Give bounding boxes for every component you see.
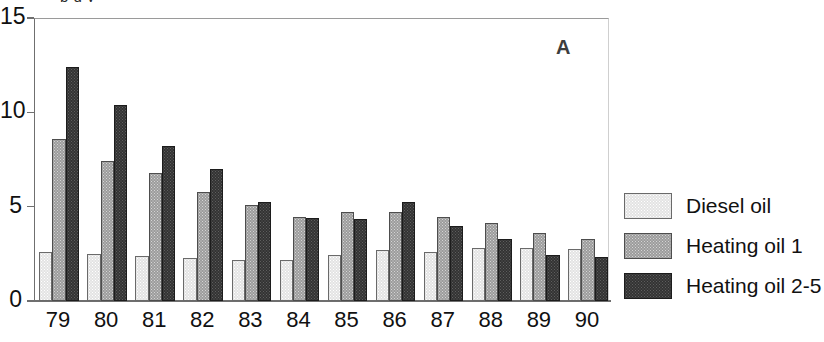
x-tick-label: 88: [467, 307, 515, 333]
legend-swatch-heating1: [624, 233, 672, 259]
legend-item-heating1: Heating oil 1: [624, 228, 820, 264]
bar-90-heating-oil-1: [581, 239, 594, 301]
bar-89-diesel-oil: [520, 248, 533, 301]
bar-84-diesel-oil: [280, 260, 293, 302]
bar-85-heating-oil-1: [341, 212, 354, 301]
y-tick-label: 0: [0, 286, 22, 313]
bar-79-heating-oil-2-5: [66, 67, 79, 301]
cut-off-caption: p g y: [60, 0, 360, 2]
bar-89-heating-oil-1: [533, 233, 546, 301]
bar-88-diesel-oil: [472, 248, 485, 301]
panel-label: A: [556, 36, 570, 59]
x-tick-label: 86: [371, 307, 419, 333]
legend-label-diesel: Diesel oil: [686, 194, 771, 218]
bar-82-diesel-oil: [183, 258, 196, 301]
bar-82-heating-oil-2-5: [210, 169, 223, 301]
y-tick-mark: [27, 300, 34, 302]
legend-item-diesel: Diesel oil: [624, 188, 820, 224]
y-tick-mark: [27, 17, 34, 19]
x-tick-label: 81: [130, 307, 178, 333]
bar-90-diesel-oil: [568, 249, 581, 301]
x-tick-label: 80: [82, 307, 130, 333]
bar-79-heating-oil-1: [52, 139, 65, 301]
y-tick-label: 10: [0, 97, 22, 124]
legend-item-heating25: Heating oil 2-5: [624, 268, 820, 304]
legend-label-heating1: Heating oil 1: [686, 234, 803, 258]
bar-88-heating-oil-1: [485, 223, 498, 301]
bar-84-heating-oil-2-5: [306, 218, 319, 301]
bar-86-heating-oil-1: [389, 212, 402, 301]
figure-panel-a: p g y 051015 798081828384858687888990 A …: [0, 0, 824, 342]
legend-swatch-diesel: [624, 193, 672, 219]
legend-swatch-heating25: [624, 273, 672, 299]
y-tick-label: 15: [0, 3, 22, 30]
bar-84-heating-oil-1: [293, 217, 306, 301]
bar-86-heating-oil-2-5: [402, 202, 415, 301]
x-tick-label: 83: [226, 307, 274, 333]
bar-80-heating-oil-2-5: [114, 105, 127, 301]
bar-80-diesel-oil: [87, 254, 100, 301]
bar-87-heating-oil-2-5: [450, 226, 463, 301]
bar-90-heating-oil-2-5: [595, 257, 608, 301]
y-tick-label: 5: [0, 192, 22, 219]
bar-81-heating-oil-1: [149, 173, 162, 301]
chart-legend: Diesel oilHeating oil 1Heating oil 2-5: [624, 188, 820, 308]
bar-80-heating-oil-1: [101, 161, 114, 301]
bar-82-heating-oil-1: [197, 192, 210, 301]
x-tick-label: 85: [323, 307, 371, 333]
x-tick-label: 84: [274, 307, 322, 333]
bar-88-heating-oil-2-5: [498, 239, 511, 301]
bar-87-diesel-oil: [424, 252, 437, 301]
y-tick-mark: [27, 112, 34, 114]
x-tick-label: 89: [515, 307, 563, 333]
x-tick-label: 82: [178, 307, 226, 333]
x-tick-label: 79: [34, 307, 82, 333]
bar-87-heating-oil-1: [437, 217, 450, 301]
bar-86-diesel-oil: [376, 250, 389, 301]
bars-layer: [34, 18, 611, 301]
y-tick-mark: [27, 206, 34, 208]
bar-83-heating-oil-1: [245, 205, 258, 301]
bar-85-diesel-oil: [328, 255, 341, 301]
x-tick-label: 87: [419, 307, 467, 333]
x-tick-label: 90: [563, 307, 611, 333]
bar-83-diesel-oil: [232, 260, 245, 302]
bar-81-heating-oil-2-5: [162, 146, 175, 301]
legend-label-heating25: Heating oil 2-5: [686, 274, 821, 298]
bar-89-heating-oil-2-5: [546, 255, 559, 301]
bar-79-diesel-oil: [39, 252, 52, 301]
bar-81-diesel-oil: [135, 256, 148, 301]
bar-85-heating-oil-2-5: [354, 219, 367, 301]
bar-83-heating-oil-2-5: [258, 202, 271, 301]
